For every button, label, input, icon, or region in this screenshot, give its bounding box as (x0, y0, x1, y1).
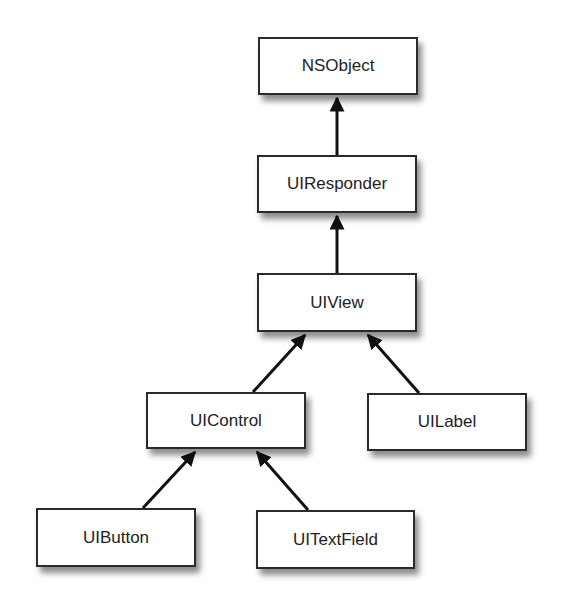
node-uilabel: UILabel (367, 393, 527, 451)
node-label: UIResponder (287, 174, 387, 194)
node-label: UIView (310, 293, 364, 313)
node-label: UILabel (418, 412, 477, 432)
node-label: NSObject (302, 56, 375, 76)
arrow-uibutton-to-uicontrol (143, 452, 195, 508)
node-nsobject: NSObject (258, 37, 418, 95)
node-label: UIButton (83, 528, 149, 548)
arrow-uicontrol-to-uiview (253, 335, 305, 392)
node-uicontrol: UIControl (146, 392, 306, 449)
node-label: UITextField (293, 530, 378, 550)
node-uibutton: UIButton (36, 508, 196, 567)
arrow-uitextfield-to-uicontrol (257, 452, 308, 510)
node-uiresponder: UIResponder (257, 155, 417, 213)
node-label: UIControl (190, 411, 262, 431)
node-uiview: UIView (257, 273, 417, 332)
node-uitextfield: UITextField (256, 510, 415, 569)
arrow-uilabel-to-uiview (368, 335, 419, 393)
